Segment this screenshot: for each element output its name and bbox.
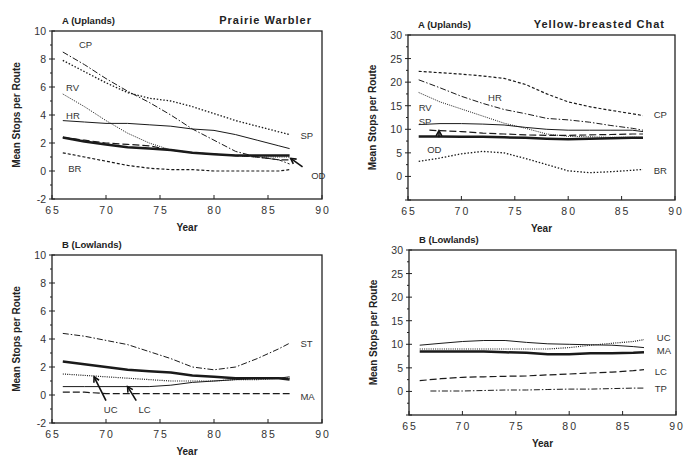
y-tick-label: 6 — [40, 305, 46, 317]
series-line-ma — [420, 341, 644, 348]
y-tick-label: 5 — [396, 147, 402, 159]
y-tick-label: 6 — [40, 81, 46, 93]
x-tick-label: 90 — [315, 204, 331, 216]
series-label-lc: LC — [655, 366, 667, 377]
x-tick-label: 85 — [616, 420, 632, 432]
y-tick-label: 30 — [390, 29, 402, 41]
series-line-sp — [63, 60, 290, 134]
x-axis-label: Year — [176, 446, 197, 457]
series-line-hr — [419, 80, 643, 130]
y-tick-label: 0 — [40, 389, 46, 401]
series-label-hr: HR — [66, 110, 80, 121]
x-tick-label: 85 — [261, 428, 277, 440]
series-line-ma — [63, 392, 290, 393]
y-axis-label: Mean Stops per Route — [11, 62, 22, 168]
series-label-tp: TP — [655, 383, 667, 394]
x-tick-label: 70 — [456, 420, 472, 432]
series-label-od: OD — [311, 170, 325, 181]
series-line-cp — [63, 52, 290, 164]
plot-frame — [409, 250, 676, 415]
x-tick-label: 70 — [455, 205, 471, 217]
x-axis-label: Year — [531, 223, 552, 234]
series-line-br — [419, 151, 643, 172]
chart-title: Yellow-breasted Chat — [534, 18, 665, 30]
series-line-st — [63, 333, 290, 369]
series-label-ma: MA — [300, 391, 315, 402]
series-label-sp: SP — [300, 130, 313, 141]
x-tick-label: 80 — [207, 204, 223, 216]
series-label-br: BR — [654, 165, 667, 176]
x-tick-label: 75 — [508, 205, 524, 217]
y-tick-label: 5 — [397, 362, 403, 374]
y-tick-label: 15 — [391, 315, 403, 327]
panel-label: A (Uplands) — [418, 19, 471, 30]
x-tick-label: 80 — [562, 420, 578, 432]
series-label-od: OD — [427, 144, 441, 155]
x-tick-label: 75 — [153, 428, 169, 440]
series-label-cp: CP — [79, 39, 92, 50]
x-tick-label: 90 — [669, 420, 685, 432]
series-label-uc: UC — [657, 332, 671, 343]
series-label-st: ST — [300, 338, 312, 349]
y-tick-label: 10 — [391, 338, 403, 350]
y-tick-label: 2 — [40, 361, 46, 373]
x-tick-label: 80 — [207, 428, 223, 440]
panel-label: B (Lowlands) — [419, 234, 479, 245]
y-axis-label: Mean Stops per Route — [11, 286, 22, 392]
y-tick-label: 10 — [34, 25, 46, 37]
x-tick-label: 85 — [615, 205, 631, 217]
y-tick-label: 10 — [34, 249, 46, 261]
x-tick-label: 65 — [402, 420, 418, 432]
y-tick-label: 0 — [40, 165, 46, 177]
x-tick-label: 65 — [401, 205, 417, 217]
x-tick-label: 85 — [261, 204, 277, 216]
series-line-mean — [420, 351, 644, 354]
y-tick-label: 20 — [391, 291, 403, 303]
y-tick-label: 4 — [40, 333, 46, 345]
plot-frame — [52, 31, 322, 199]
annotation-arrow — [94, 377, 106, 401]
y-tick-label: 0 — [396, 170, 402, 182]
y-tick-label: 2 — [40, 137, 46, 149]
series-label-lc: LC — [138, 404, 150, 415]
x-tick-label: 75 — [153, 204, 169, 216]
x-tick-label: 70 — [99, 204, 115, 216]
y-tick-label: 20 — [390, 76, 402, 88]
y-tick-label: 8 — [40, 53, 46, 65]
series-label-rv: RV — [419, 102, 433, 113]
chart-prairie-warbler-uplands: 657075808590-20246810YearMean Stops per … — [11, 14, 331, 233]
panel-label: A (Uplands) — [62, 15, 115, 26]
panel-label: B (Lowlands) — [62, 239, 122, 250]
series-label-sp: SP — [419, 116, 432, 127]
y-tick-label: -2 — [37, 417, 46, 429]
y-tick-label: 15 — [390, 100, 402, 112]
y-tick-label: 30 — [391, 244, 403, 256]
chart-title: Prairie Warbler — [219, 14, 312, 26]
series-label-hr: HR — [488, 92, 502, 103]
series-line-mean — [419, 136, 643, 139]
series-label-cp: CP — [654, 109, 667, 120]
x-tick-label: 75 — [509, 420, 525, 432]
series-line-uc — [420, 340, 644, 349]
y-tick-label: 8 — [40, 277, 46, 289]
series-line-cp — [419, 71, 643, 115]
series-label-br: BR — [68, 163, 81, 174]
plot-frame — [52, 255, 322, 423]
y-tick-label: 25 — [391, 268, 403, 280]
series-line-mean — [63, 361, 290, 379]
x-tick-label: 65 — [45, 204, 61, 216]
y-tick-label: 4 — [40, 109, 46, 121]
series-line-lc — [420, 370, 644, 381]
y-axis-label: Mean Stops per Route — [368, 279, 379, 385]
series-line-tp — [430, 388, 644, 391]
chart-yellow-breasted-chat-uplands: 657075808590051015202530YearMean Stops p… — [367, 18, 684, 234]
y-tick-label: -2 — [37, 193, 46, 205]
x-tick-label: 70 — [99, 428, 115, 440]
x-tick-label: 80 — [561, 205, 577, 217]
chart-prairie-warbler-lowlands: 657075808590-20246810YearMean Stops per … — [11, 239, 331, 457]
y-axis-label: Mean Stops per Route — [367, 64, 378, 170]
series-label-ma: MA — [657, 345, 672, 356]
x-axis-label: Year — [176, 222, 197, 233]
x-tick-label: 65 — [45, 428, 61, 440]
x-tick-label: 90 — [668, 205, 684, 217]
